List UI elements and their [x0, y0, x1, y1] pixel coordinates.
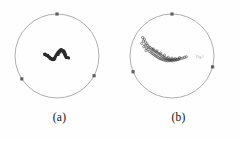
panel-a-caption: (a): [0, 110, 119, 124]
data-point: [60, 48, 63, 51]
panel-b-annotation: Fig.1: [196, 55, 204, 59]
data-point: [143, 46, 145, 48]
data-point: [49, 57, 52, 60]
stereonet-plot-b: [119, 0, 238, 110]
perimeter-tick-2: [20, 77, 23, 80]
perimeter-tick-2: [131, 70, 134, 73]
perimeter-tick-1: [55, 12, 58, 15]
stereonet-plot-a: [0, 0, 119, 110]
perimeter-tick-1: [170, 12, 173, 15]
data-point-group: [141, 36, 188, 61]
data-point-group: [43, 48, 70, 61]
data-point: [145, 49, 147, 51]
stereonet-panel-b: Fig.1 (b): [119, 0, 238, 141]
data-point: [57, 52, 60, 55]
figure-root: (a) Fig.1 (b): [0, 0, 239, 141]
perimeter-tick-0: [211, 65, 214, 68]
panel-b-caption: (b): [119, 110, 238, 124]
data-point: [44, 53, 47, 56]
data-point: [68, 57, 71, 60]
data-point: [141, 42, 143, 44]
perimeter-tick-0: [92, 74, 95, 77]
data-point: [54, 58, 57, 61]
data-point: [62, 50, 65, 53]
stereonet-panel-a: (a): [0, 0, 119, 141]
data-point: [47, 54, 50, 57]
